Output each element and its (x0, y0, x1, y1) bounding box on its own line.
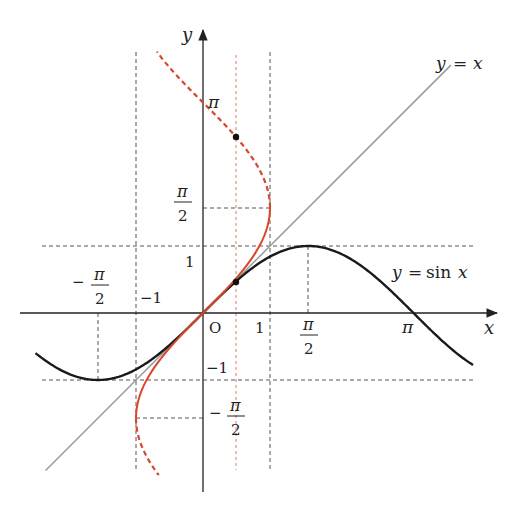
identity-line (46, 65, 451, 470)
origin-label: O (209, 319, 221, 337)
label-identity-eq: = (453, 53, 467, 73)
x-axis-label: x (484, 317, 494, 338)
inverse-relation-dashed-upper (157, 52, 270, 208)
y-tick-pi-half-num: π (176, 182, 188, 201)
y-tick-1: 1 (185, 253, 195, 271)
x-tick-1: 1 (255, 319, 265, 337)
x-tick-neg-pi-half: − π 2 (72, 265, 109, 308)
point-pi-minus-arcsin-half (233, 134, 239, 140)
y-tick-neg-pi-half-den: 2 (231, 421, 241, 439)
point-arcsin-half (233, 279, 239, 285)
x-tick-neg-pi-half-den: 2 (95, 290, 105, 308)
y-axis-label: y (181, 24, 193, 45)
inverse-relation-dashed-lower (136, 418, 159, 475)
minus-sign: − (209, 404, 222, 422)
label-sine-x: x (458, 262, 468, 282)
x-tick-neg-pi-half-num: π (93, 265, 105, 284)
y-tick-pi: π (207, 92, 220, 112)
x-tick-pi-half-num: π (302, 315, 314, 334)
guide-lines (42, 52, 473, 470)
x-tick-pi-half-den: 2 (304, 340, 314, 358)
label-sine-y: y (391, 262, 402, 282)
x-tick-pi-half: π 2 (300, 315, 318, 358)
x-tick-pi: π (401, 317, 414, 337)
label-identity-x: x (473, 53, 483, 73)
function-graph: y x O π π 2 1 −1 − π 2 − π 2 −1 1 π 2 π … (0, 0, 515, 505)
y-tick-pi-half-den: 2 (178, 207, 188, 225)
y-tick-neg-pi-half: − π 2 (209, 396, 245, 439)
label-sine-eq: = (408, 262, 422, 282)
y-tick-pi-half: π 2 (174, 182, 192, 225)
label-sine-fn: sin (426, 262, 451, 282)
minus-sign: − (72, 273, 85, 291)
label-sine: y = sin x (391, 262, 468, 282)
y-tick-neg1: −1 (206, 359, 228, 377)
y-tick-neg-pi-half-num: π (229, 396, 241, 415)
label-identity: y = x (435, 53, 483, 73)
label-identity-y: y (435, 53, 446, 73)
x-tick-neg1: −1 (140, 289, 162, 307)
